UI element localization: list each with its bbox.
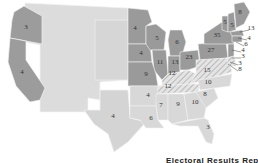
state-vote-label: 4 — [139, 49, 143, 57]
state-vote-label: 5 — [223, 18, 227, 26]
state-vote-label: 8 — [203, 90, 207, 98]
state-vote-label: 12 — [165, 82, 173, 90]
state-missouri — [128, 62, 158, 86]
state-vote-label: 3 — [24, 23, 28, 31]
state-vote-label: 4 — [247, 34, 251, 42]
state-vote-label: 5 — [230, 21, 234, 29]
state-vote-label: 6 — [149, 114, 153, 122]
state-vote-label: 4 — [146, 91, 150, 99]
state-vote-label: 5 — [155, 34, 159, 42]
us-electoral-map: 3444456111323273555813464338912151210487… — [0, 0, 258, 163]
state-connecticut — [232, 36, 242, 42]
state-vote-label: 23 — [186, 53, 194, 61]
state-vote-label: 4 — [111, 112, 115, 120]
state-vote-label: 13 — [172, 58, 180, 66]
state-vote-label: 11 — [157, 58, 164, 66]
state-vote-label: 7 — [159, 101, 163, 109]
state-vote-label: 9 — [144, 70, 148, 78]
state-california — [8, 38, 45, 102]
map-caption: Electoral Results Repor — [166, 156, 258, 163]
state-vote-label: 9 — [176, 100, 180, 108]
state-vote-label: 3 — [206, 123, 210, 131]
state-vote-label: 3 — [241, 52, 245, 60]
state-vote-label: 27 — [208, 46, 216, 54]
state-vote-label: 4 — [133, 24, 137, 32]
state-vote-label: 10 — [205, 78, 213, 86]
state-vote-label: 15 — [204, 66, 212, 74]
state-vote-label: 35 — [214, 31, 222, 39]
territory-plains — [95, 20, 128, 80]
state-vote-label: 10 — [192, 98, 200, 106]
state-vote-label: 4 — [20, 68, 24, 76]
state-new-jersey — [228, 44, 234, 58]
state-arkansas — [130, 86, 158, 106]
state-vote-label: 8 — [238, 8, 242, 16]
state-vote-label: 6 — [244, 40, 248, 48]
state-vote-label: 6 — [175, 38, 179, 46]
state-vote-label: 12 — [169, 69, 177, 77]
state-vote-label: 13 — [248, 24, 256, 32]
state-vote-label: 8 — [238, 65, 242, 73]
